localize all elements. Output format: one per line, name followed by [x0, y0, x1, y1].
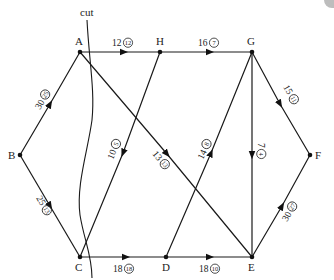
- edges: [20, 52, 310, 257]
- edge-label-h-c: 10 5: [106, 138, 123, 161]
- edge-label-a-e: 13 13: [150, 149, 171, 171]
- node-label-a: A: [75, 35, 83, 47]
- node-d: [164, 255, 169, 260]
- node-label-g: G: [247, 35, 255, 47]
- node-label-f: F: [315, 149, 321, 161]
- cut-label: cut: [80, 6, 93, 18]
- edge-g-f: [252, 52, 310, 155]
- edge-label-c-d: 18 18: [113, 264, 134, 274]
- node-f: [308, 153, 313, 158]
- edge-b-a: [20, 52, 80, 155]
- svg-text:7: 7: [212, 39, 216, 46]
- svg-text:7: 7: [256, 143, 266, 148]
- svg-text:12: 12: [112, 38, 122, 48]
- edge-d-g: [166, 52, 252, 257]
- svg-text:18: 18: [126, 265, 133, 272]
- svg-text:5: 5: [112, 141, 120, 147]
- svg-text:12: 12: [125, 39, 132, 46]
- node-h: [158, 50, 163, 55]
- svg-text:18: 18: [199, 264, 209, 274]
- node-label-c: C: [75, 261, 82, 273]
- svg-text:14: 14: [196, 148, 209, 161]
- flow-network-diagram: cut A H G B F C D E 12 12 16 7 18 18: [0, 0, 334, 280]
- edge-label-g-e: 7 4: [256, 143, 266, 159]
- svg-text:18: 18: [113, 264, 123, 274]
- node-g: [250, 50, 255, 55]
- node-e: [250, 255, 255, 260]
- svg-text:16: 16: [198, 38, 208, 48]
- edge-label-d-g: 14 8: [196, 138, 214, 161]
- node-b: [18, 153, 23, 158]
- svg-text:30: 30: [280, 210, 294, 223]
- svg-text:30: 30: [33, 98, 47, 111]
- edge-label-d-e: 18 10: [199, 264, 220, 274]
- node-c: [78, 255, 83, 260]
- edge-label-a-h: 12 12: [112, 38, 133, 48]
- svg-text:8: 8: [202, 141, 210, 147]
- edge-label-b-c: 25 13: [34, 194, 53, 217]
- edge-label-b-a: 30 25: [33, 88, 52, 111]
- edge-b-c: [20, 155, 80, 257]
- node-label-d: D: [162, 261, 170, 273]
- svg-text:4: 4: [258, 152, 265, 156]
- node-a: [78, 50, 83, 55]
- node-label-h: H: [156, 35, 164, 47]
- node-label-e: E: [248, 261, 255, 273]
- edge-label-g-f: 15 11: [281, 83, 300, 106]
- node-label-b: B: [8, 149, 15, 161]
- edge-e-f: [252, 155, 310, 257]
- svg-text:10: 10: [106, 148, 119, 161]
- svg-text:10: 10: [212, 265, 219, 272]
- edge-label-h-g: 16 7: [198, 38, 219, 48]
- node-labels: A H G B F C D E: [8, 35, 321, 273]
